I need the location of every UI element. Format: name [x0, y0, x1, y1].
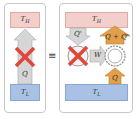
work-label: W	[94, 51, 101, 59]
right-panel: TH Q' W Q + Q' Q TL	[59, 3, 133, 113]
cold-reservoir: TL	[10, 84, 40, 101]
heat-flow-label: Q	[22, 70, 28, 78]
cold-reservoir-label: TL	[93, 88, 101, 97]
equivalence-symbol: ≡	[48, 50, 56, 61]
cold-reservoir: TL	[65, 84, 128, 101]
engine-heat-label: Q'	[74, 30, 82, 38]
pump-output-label: Q + Q'	[105, 33, 129, 41]
pump-input-label: Q	[112, 74, 118, 82]
left-panel: TH Q TL	[4, 3, 46, 113]
cold-reservoir-label: TL	[21, 88, 29, 97]
